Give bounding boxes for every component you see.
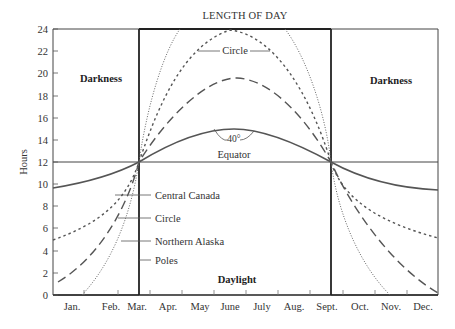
svg-text:0: 0: [43, 290, 48, 301]
chart-title: LENGTH OF DAY: [202, 10, 287, 21]
y-tick-labels: 0 2 4 6 8 10 12 14 16 18 20 22 24: [38, 24, 49, 301]
darkness-right-label: Darkness: [370, 75, 412, 86]
svg-text:8: 8: [43, 201, 48, 212]
poles-label: Poles: [155, 255, 178, 266]
svg-text:Apr.: Apr.: [159, 301, 177, 312]
svg-text:Oct.: Oct.: [351, 301, 369, 312]
angle-label: 40°: [227, 134, 241, 144]
svg-text:6: 6: [43, 223, 48, 234]
svg-text:Jan.: Jan.: [64, 301, 81, 312]
svg-text:2: 2: [43, 268, 48, 279]
svg-text:June: June: [220, 301, 240, 312]
equator-label: Equator: [217, 149, 251, 160]
circle-top-label: Circle: [222, 45, 248, 56]
svg-text:22: 22: [38, 46, 49, 57]
svg-text:Feb.: Feb.: [102, 301, 120, 312]
series-arctic-circle: [53, 30, 438, 240]
x-tick-labels: Jan. Feb. Mar. Apr. May June July Aug. S…: [64, 301, 433, 312]
svg-text:May: May: [190, 301, 210, 312]
svg-text:10: 10: [38, 179, 49, 190]
svg-text:14: 14: [38, 135, 49, 146]
northern-alaska-label: Northern Alaska: [155, 236, 224, 247]
svg-text:Dec.: Dec.: [413, 301, 433, 312]
svg-text:Aug.: Aug.: [284, 301, 305, 312]
svg-text:16: 16: [38, 113, 49, 124]
svg-text:4: 4: [43, 246, 49, 257]
y-axis-label: Hours: [18, 149, 29, 175]
svg-text:Nov.: Nov.: [381, 301, 401, 312]
svg-text:18: 18: [38, 91, 49, 102]
svg-text:12: 12: [38, 157, 49, 168]
svg-text:Sept.: Sept.: [316, 301, 337, 312]
darkness-left-label: Darkness: [80, 73, 122, 84]
daylight-label: Daylight: [218, 274, 257, 285]
central-canada-label: Central Canada: [155, 190, 220, 201]
length-of-day-chart: LENGTH OF DAY Hours 0 2 4: [0, 0, 455, 329]
svg-text:Mar.: Mar.: [127, 301, 147, 312]
y-ticks: [53, 29, 58, 295]
svg-text:24: 24: [38, 24, 49, 35]
circle-left-label: Circle: [155, 213, 181, 224]
svg-text:20: 20: [38, 68, 49, 79]
series-central-canada: [58, 78, 438, 293]
svg-text:July: July: [253, 301, 271, 312]
